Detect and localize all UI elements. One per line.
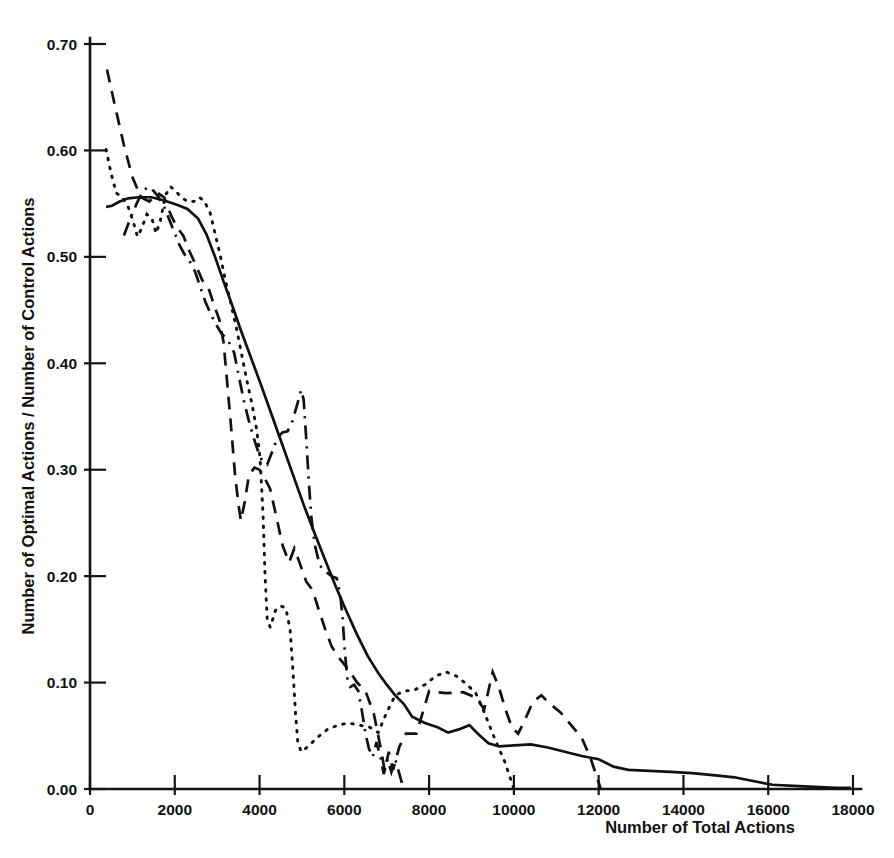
y-tick-label-0: 0.00 — [47, 781, 77, 798]
x-axis-title: Number of Total Actions — [605, 818, 795, 836]
x-tick-label-3: 6000 — [327, 801, 361, 818]
solid-curve — [106, 197, 851, 788]
x-tick-label-0: 0 — [86, 801, 95, 818]
x-tick-label-5: 10000 — [492, 801, 535, 818]
y-tick-label-2: 0.20 — [47, 568, 77, 585]
y-tick-label-4: 0.40 — [47, 355, 77, 372]
x-tick-label-7: 14000 — [662, 801, 705, 818]
dashdot-curve — [124, 187, 404, 789]
y-axis-title: Number of Optimal Actions / Number of Co… — [19, 198, 37, 635]
dashed-curve — [107, 70, 601, 789]
x-tick-label-4: 8000 — [412, 801, 446, 818]
x-tick-label-2: 4000 — [242, 801, 276, 818]
x-tick-label-1: 2000 — [158, 801, 192, 818]
y-tick-label-5: 0.50 — [47, 248, 77, 265]
x-axis-tick-labels: 0200040006000800010000120001400016000180… — [86, 801, 875, 818]
x-tick-label-6: 12000 — [577, 801, 620, 818]
y-tick-label-1: 0.10 — [47, 674, 77, 691]
y-axis-ticks — [84, 44, 106, 789]
x-tick-label-8: 16000 — [747, 801, 790, 818]
y-tick-label-3: 0.30 — [47, 461, 77, 478]
data-series-group — [106, 70, 851, 789]
y-tick-label-7: 0.70 — [47, 36, 77, 53]
chart-figure: 0.000.100.200.300.400.500.600.70 0200040… — [0, 0, 894, 858]
x-tick-label-9: 18000 — [831, 801, 874, 818]
dotted-curve — [106, 149, 514, 789]
line-chart-canvas: 0.000.100.200.300.400.500.600.70 0200040… — [0, 0, 894, 858]
y-tick-label-6: 0.60 — [47, 142, 77, 159]
y-axis-tick-labels: 0.000.100.200.300.400.500.600.70 — [47, 36, 77, 798]
